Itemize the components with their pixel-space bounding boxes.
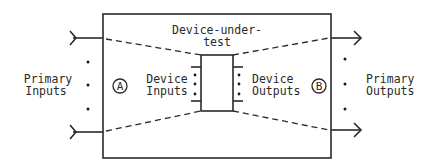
dut-box [201, 55, 233, 111]
dut-label-line2: test [203, 35, 231, 49]
dut-block-diagram: A B Device-under- test Primary Inputs De… [0, 0, 441, 165]
fan-out-bottom-dashed [233, 111, 329, 130]
fan-in-bottom-dashed [106, 111, 201, 131]
device-inputs-label-line2: Inputs [146, 84, 188, 98]
primary-outputs-ellipsis [344, 58, 347, 111]
dut-input-pins [191, 67, 201, 101]
fan-out-top-dashed [233, 38, 329, 55]
primary-input-line-bottom [70, 125, 103, 139]
primary-inputs-label-line2: Inputs [25, 84, 67, 98]
node-a-label: A [117, 80, 124, 93]
fan-in-top-dashed [106, 39, 201, 55]
device-outputs-label-line2: Outputs [252, 84, 300, 98]
primary-outputs-label-line2: Outputs [366, 84, 414, 98]
primary-input-line-top [70, 31, 103, 45]
primary-output-line-bottom [331, 123, 361, 137]
primary-output-line-top [331, 31, 361, 45]
node-b-label: B [316, 80, 323, 93]
primary-inputs-ellipsis [87, 61, 90, 111]
dut-output-pins [233, 67, 243, 101]
node-a: A [113, 79, 127, 93]
node-b: B [312, 79, 326, 93]
